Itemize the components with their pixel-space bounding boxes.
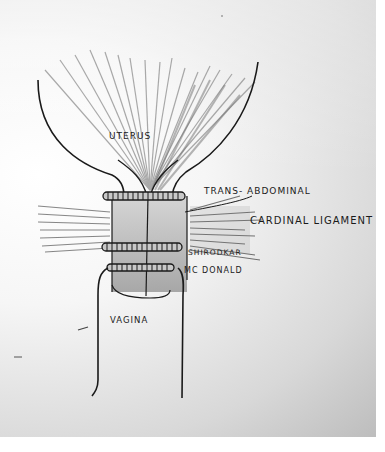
cardinal-ligament-left (38, 206, 110, 252)
label-uterus: UTERUS (109, 131, 151, 141)
trans-abdominal-suture (103, 192, 185, 200)
label-cardinal-ligament: CARDINAL LIGAMENT (250, 215, 373, 226)
label-vagina: VAGINA (110, 315, 148, 325)
mcdonald-suture (107, 264, 174, 271)
shirodkar-suture (102, 243, 182, 251)
label-mcdonald: MC DONALD (184, 266, 243, 275)
uterus-shading (45, 50, 255, 190)
label-trans-abdominal: TRANS- ABDOMINAL (204, 186, 311, 196)
label-shirodkar: SHIRODKAR (188, 248, 242, 257)
vagina-outline (92, 268, 108, 396)
diagram-drawing (0, 0, 385, 452)
